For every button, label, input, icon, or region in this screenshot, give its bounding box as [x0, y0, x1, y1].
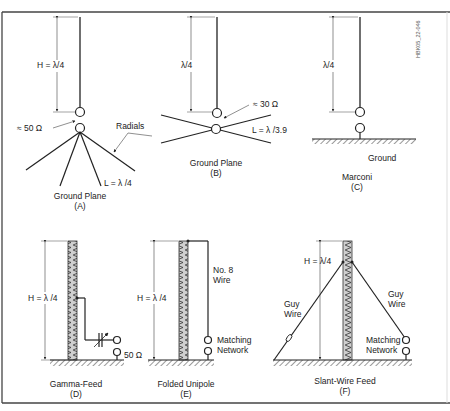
- panel-d-gamma-feed: 50 Ω H = λ /4 Gamma-Feed (D): [27, 241, 142, 399]
- panel-d-height-label: H = λ /4: [28, 293, 58, 303]
- panel-b-height-label: λ/4: [181, 60, 193, 70]
- panel-c-marconi: λ/4 Ground Marconi (C): [312, 17, 416, 192]
- panel-e-title: Folded Unipole: [157, 379, 214, 389]
- panel-e-network-label-1: Matching: [217, 335, 252, 345]
- panel-b-length-label: L = λ /3.9: [252, 125, 287, 135]
- panel-f-guy-right-label-2: Wire: [388, 299, 406, 309]
- panel-a-ground-plane: H = λ/4 ≈ 50 Ω Radials L = λ /4 Ground P…: [17, 17, 152, 211]
- panel-a-length-label: L = λ /4: [104, 178, 132, 188]
- panel-a-impedance-label: ≈ 50 Ω: [17, 123, 42, 133]
- panel-f-guy-left-label-1: Guy: [284, 299, 300, 309]
- antenna-feed-diagram: HBK05_22-046 H = λ/4 ≈ 50 Ω Radials L = …: [0, 0, 450, 411]
- figure-id: HBK05_22-046: [415, 20, 421, 58]
- panel-e-network-label-2: Network: [217, 345, 249, 355]
- panel-c-height-label: λ/4: [323, 60, 335, 70]
- panel-c-letter: (C): [351, 182, 363, 192]
- panel-c-title: Marconi: [342, 172, 372, 182]
- panel-e-letter: (E): [180, 389, 192, 399]
- panel-f-letter: (F): [340, 386, 351, 396]
- panel-b-letter: (B): [210, 168, 222, 178]
- panel-e-wire-label-1: No. 8: [213, 265, 234, 275]
- panel-a-title: Ground Plane: [54, 191, 107, 201]
- panel-f-height-label: H = λ/4: [304, 256, 331, 266]
- panel-f-guy-right-label-1: Guy: [388, 289, 404, 299]
- panel-f-guy-left-label-2: Wire: [284, 309, 302, 319]
- panel-d-impedance-label: 50 Ω: [124, 350, 142, 360]
- panel-d-title: Gamma-Feed: [50, 379, 103, 389]
- panel-e-wire-label-2: Wire: [213, 275, 231, 285]
- panel-a-letter: (A): [74, 201, 86, 211]
- panel-a-radials-label: Radials: [116, 121, 144, 131]
- panel-f-network-label-1: Matching: [366, 335, 401, 345]
- panel-c-ground-label: Ground: [368, 153, 397, 163]
- panel-f-slant-wire-feed: H = λ/4 Guy Wire Guy Wire Matching Netwo…: [273, 241, 412, 396]
- panel-e-folded-unipole: No. 8 Wire Matching Network H = λ /4 Fol…: [136, 240, 252, 400]
- panel-a-height-label: H = λ/4: [37, 60, 64, 70]
- panel-d-letter: (D): [70, 389, 82, 399]
- panel-b-ground-plane: λ/4 ≈ 30 Ω L = λ /3.9 Ground Plane (B): [161, 17, 287, 178]
- panel-f-network-label-2: Network: [366, 345, 398, 355]
- panel-f-title: Slant-Wire Feed: [314, 376, 376, 386]
- panel-e-height-label: H = λ /4: [137, 293, 167, 303]
- panel-b-title: Ground Plane: [190, 158, 243, 168]
- panel-b-impedance-label: ≈ 30 Ω: [253, 99, 278, 109]
